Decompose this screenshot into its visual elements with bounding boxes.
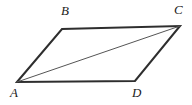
vertex-label-d: D <box>132 86 141 99</box>
parallelogram-drawing <box>0 0 192 105</box>
vertex-label-b: B <box>61 4 69 17</box>
figure-background <box>0 0 192 105</box>
geometry-figure: A B C D <box>0 0 192 105</box>
vertex-label-a: A <box>10 86 18 99</box>
vertex-label-c: C <box>174 3 183 16</box>
